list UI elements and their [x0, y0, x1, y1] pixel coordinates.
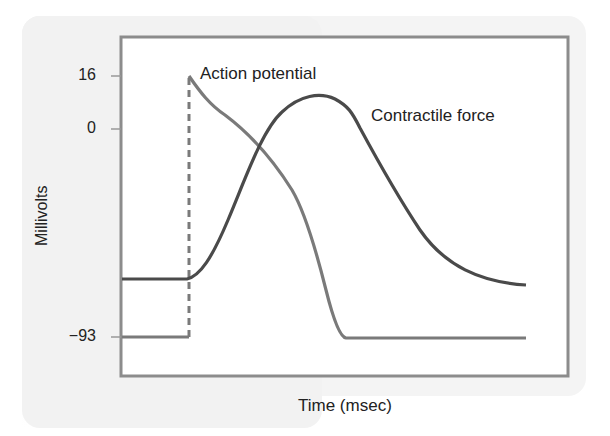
y-tick-label-16: 16: [36, 66, 96, 84]
contractile-force-annotation: Contractile force: [371, 106, 495, 126]
y-tick-label-0: 0: [36, 119, 96, 137]
x-axis-label: Time (msec): [298, 396, 392, 416]
action-potential-annotation: Action potential: [200, 64, 316, 84]
plot-area-frame: [121, 37, 568, 376]
y-tick-label-minus93: −93: [36, 327, 96, 345]
y-axis-label: Millivolts: [33, 186, 51, 246]
